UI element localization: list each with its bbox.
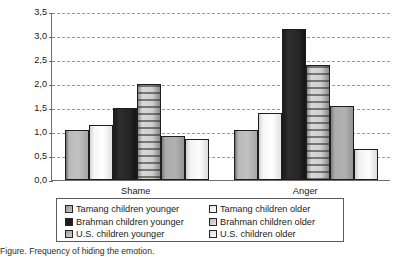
y-tick-label: 2,0	[19, 80, 47, 89]
legend-label: U.S. children younger	[76, 229, 164, 239]
bar	[89, 125, 113, 180]
legend-column-older: Tamang children olderBrahman children ol…	[209, 203, 315, 241]
figure-caption: Figure. Frequency of hiding the emotion.	[0, 246, 399, 256]
bar	[330, 106, 354, 180]
bar	[65, 130, 89, 180]
y-tick-label: 0,5	[19, 152, 47, 161]
bar	[113, 108, 137, 180]
y-tick-label: 3,0	[19, 32, 47, 41]
bar-series-container	[52, 13, 390, 180]
legend-swatch-icon	[65, 230, 73, 238]
legend-label: Brahman children older	[220, 217, 315, 227]
bar-group-anger	[222, 13, 392, 180]
legend-label: U.S. children older	[220, 229, 296, 239]
y-tick-label: 1,0	[19, 128, 47, 137]
bar	[234, 130, 258, 180]
legend-swatch-icon	[209, 205, 217, 213]
legend-label: Tamang children older	[220, 204, 310, 214]
legend-column-younger: Tamang children youngerBrahman children …	[65, 203, 184, 241]
legend-swatch-icon	[209, 230, 217, 238]
bar-chart-figure: Frequency of hiding the emotion 3,53,02,…	[0, 0, 399, 258]
bar-group-shame	[52, 13, 222, 180]
bar	[185, 139, 209, 180]
bar	[161, 136, 185, 180]
chart-legend: Tamang children youngerBrahman children …	[56, 198, 344, 242]
plot-area	[51, 13, 390, 181]
legend-item: U.S. children older	[209, 228, 315, 241]
legend-item: U.S. children younger	[65, 228, 184, 241]
legend-swatch-icon	[65, 205, 73, 213]
bar	[282, 29, 306, 180]
y-tick-label: 1,5	[19, 104, 47, 113]
x-category-label: Shame	[76, 186, 196, 196]
legend-item: Brahman children older	[209, 216, 315, 229]
legend-swatch-icon	[65, 218, 73, 226]
bar	[258, 113, 282, 180]
legend-item: Tamang children older	[209, 203, 315, 216]
y-tick-label: 2,5	[19, 56, 47, 65]
legend-item: Brahman children younger	[65, 216, 184, 229]
legend-item: Tamang children younger	[65, 203, 184, 216]
y-tick-label: 3,5	[19, 8, 47, 17]
x-category-label: Anger	[245, 186, 365, 196]
legend-label: Brahman children younger	[76, 217, 184, 227]
bar	[354, 149, 378, 180]
bar	[137, 84, 161, 180]
y-tick-label: 0,0	[19, 176, 47, 185]
legend-label: Tamang children younger	[76, 204, 179, 214]
y-tick-mark	[49, 181, 53, 182]
y-axis-title: Frequency of hiding the emotion	[0, 0, 12, 28]
legend-swatch-icon	[209, 218, 217, 226]
bar	[306, 65, 330, 180]
